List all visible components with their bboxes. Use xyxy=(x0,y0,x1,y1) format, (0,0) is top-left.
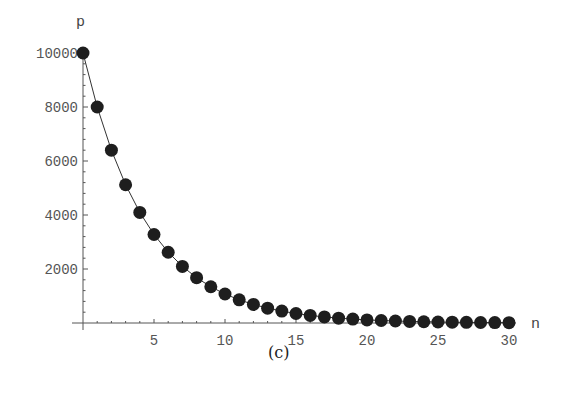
data-line xyxy=(83,53,509,323)
data-point xyxy=(133,206,146,219)
y-tick-label: 8000 xyxy=(44,100,78,116)
data-point xyxy=(77,47,90,60)
data-point xyxy=(275,305,288,318)
data-point xyxy=(474,316,487,329)
data-point xyxy=(332,312,345,325)
data-point xyxy=(290,307,303,320)
figure-caption: (c) xyxy=(268,343,289,362)
data-point xyxy=(304,309,317,322)
data-point xyxy=(233,293,246,306)
data-points xyxy=(77,47,516,330)
data-point xyxy=(446,316,459,329)
data-point xyxy=(219,288,232,301)
data-point xyxy=(460,316,473,329)
data-point xyxy=(503,316,516,329)
data-point xyxy=(361,313,374,326)
x-tick-label: 30 xyxy=(501,333,518,349)
y-tick-label: 2000 xyxy=(44,262,78,278)
data-point xyxy=(105,144,118,157)
x-tick-label: 20 xyxy=(359,333,376,349)
data-point xyxy=(417,315,430,328)
data-point xyxy=(162,246,175,259)
data-point xyxy=(261,302,274,315)
y-tick-label: 6000 xyxy=(44,154,78,170)
data-point xyxy=(403,315,416,328)
axes: 51015202530 200040006000800010000 n p xyxy=(36,14,540,349)
y-ticks: 200040006000800010000 xyxy=(36,46,88,312)
x-tick-label: 10 xyxy=(217,333,234,349)
data-point xyxy=(119,178,132,191)
data-point xyxy=(91,101,104,114)
data-point xyxy=(488,316,501,329)
data-point xyxy=(148,228,161,241)
y-tick-label: 10000 xyxy=(36,46,78,62)
x-tick-label: 25 xyxy=(430,333,447,349)
data-point xyxy=(176,260,189,273)
x-tick-label: 5 xyxy=(150,333,158,349)
x-axis-label: n xyxy=(531,316,540,333)
y-axis-label: p xyxy=(76,14,85,31)
data-point xyxy=(375,314,388,327)
data-point xyxy=(432,315,445,328)
data-point xyxy=(346,313,359,326)
data-point xyxy=(204,280,217,293)
y-tick-label: 4000 xyxy=(44,208,78,224)
data-point xyxy=(247,298,260,311)
data-point xyxy=(190,271,203,284)
x-tick-label: 15 xyxy=(288,333,305,349)
data-point xyxy=(389,315,402,328)
data-point xyxy=(318,310,331,323)
